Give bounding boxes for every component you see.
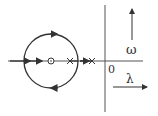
omega-label: ω xyxy=(126,43,137,56)
lambda-label: λ xyxy=(126,73,134,85)
origin-label: 0 xyxy=(108,64,115,75)
root-locus-diagram xyxy=(0,0,158,116)
